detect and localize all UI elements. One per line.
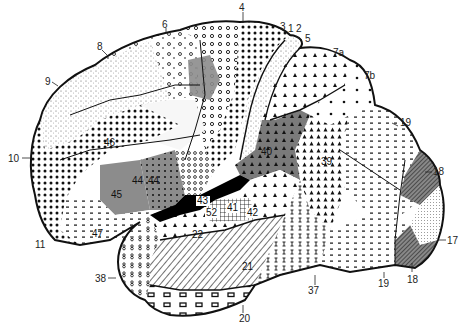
label-area-2: 2 (296, 23, 302, 34)
label-area-38: 38 (95, 273, 107, 284)
label-area-52: 52 (206, 207, 218, 218)
label-area-18-upper: 18 (433, 166, 445, 177)
label-area-11: 11 (35, 239, 46, 250)
label-area-43: 43 (197, 195, 209, 206)
label-area-22: 22 (192, 229, 204, 240)
label-area-7a: 7a (333, 47, 345, 58)
label-area-42: 42 (247, 207, 259, 218)
label-area-44-left: 44 (132, 175, 144, 186)
label-area-4: 4 (239, 2, 245, 13)
label-area-20: 20 (239, 313, 251, 324)
label-area-17: 17 (447, 235, 459, 246)
brodmann-brain-diagram: 4 6 3 1 2 5 7a 7b 8 9 10 11 19 18 17 18 … (0, 0, 459, 332)
label-area-21: 21 (242, 261, 254, 272)
label-area-41: 41 (227, 202, 239, 213)
label-area-19-upper: 19 (400, 117, 412, 128)
label-area-7b: 7b (364, 70, 376, 81)
leader-line-9 (52, 82, 58, 86)
label-area-10: 10 (8, 153, 20, 164)
label-area-37: 37 (308, 285, 320, 296)
label-area-47: 47 (92, 228, 104, 239)
label-area-44-right: 44 (148, 175, 160, 186)
label-area-9: 9 (45, 76, 51, 87)
label-area-6: 6 (162, 19, 168, 30)
label-area-46: 46 (104, 137, 116, 148)
label-area-18-lower: 18 (407, 274, 419, 285)
label-area-40: 40 (261, 146, 273, 157)
label-area-8: 8 (97, 41, 103, 52)
label-area-19-lower: 19 (378, 278, 390, 289)
label-area-5: 5 (305, 33, 311, 44)
label-area-39: 39 (321, 156, 333, 167)
label-area-1: 1 (288, 23, 294, 34)
label-area-45: 45 (111, 189, 123, 200)
leader-line-8 (102, 50, 108, 56)
label-area-3: 3 (280, 21, 286, 32)
